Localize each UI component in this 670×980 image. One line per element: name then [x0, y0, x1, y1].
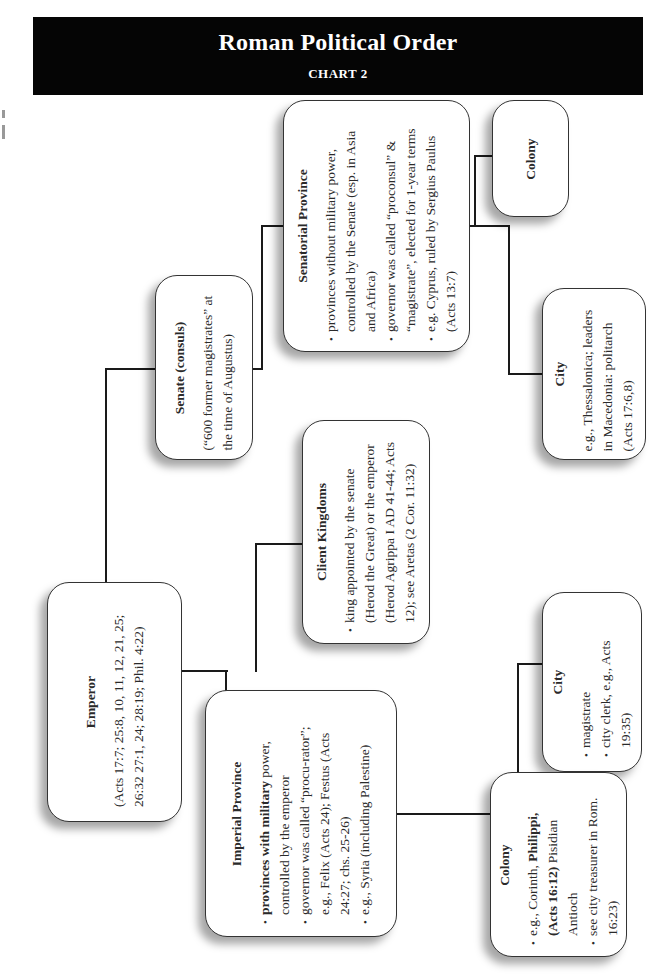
- chart-subtitle: CHART 2: [33, 66, 643, 82]
- connector-colony-up: [517, 663, 519, 773]
- node-imperial-city: City magistrate city clerk, e.g., Acts 1…: [542, 592, 642, 772]
- connector-emperor-to-senate-vertical: [105, 368, 107, 583]
- node-title: Senate (consuls): [170, 285, 190, 450]
- bullet-item: governor was called “proconsul” & “magis…: [381, 111, 421, 341]
- connector-client-horizontal: [255, 543, 302, 545]
- node-title: Imperial Province: [227, 704, 247, 924]
- node-title: Colony: [495, 785, 515, 945]
- connector-emperor-right: [180, 670, 228, 672]
- node-senatorial-colony: Colony: [492, 100, 569, 217]
- bullet-list: magistrate city clerk, e.g., Acts 19:35): [576, 607, 636, 757]
- bullet-item: governor was called “procu-rator”; e.g.,…: [295, 704, 355, 924]
- connector-imperial-right: [395, 813, 495, 815]
- node-imperial-colony: Colony e.g., Corinth, Philippi, (Acts 16…: [490, 772, 627, 957]
- connector-client-vertical: [255, 543, 257, 672]
- bullet-item: king appointed by the senate (Herod the …: [340, 432, 420, 632]
- bullet-item: provinces with military power, controlle…: [255, 704, 295, 924]
- node-title: City: [548, 607, 568, 757]
- node-imperial-province: Imperial Province provinces with militar…: [205, 690, 397, 937]
- node-title: Client Kingdoms: [312, 432, 332, 632]
- node-note: (“600 former magistrates” at the time of…: [198, 285, 238, 450]
- bullet-text: e.g., Corinth,: [525, 861, 540, 935]
- node-emperor: Emperor (Acts 17:7; 25:8, 10, 11, 12, 21…: [47, 582, 182, 822]
- bullet-item: e.g., Corinth, Philippi, (Acts 16:12) Pi…: [523, 785, 583, 945]
- bullet-list: provinces without military power, contro…: [321, 111, 461, 341]
- connector-colony-branch: [474, 155, 476, 227]
- node-note: (Acts 17:7; 25:8, 10, 11, 12, 21, 25; 26…: [109, 597, 149, 807]
- node-senate: Senate (consuls) (“600 former magistrate…: [155, 275, 253, 460]
- connector-city-horizontal: [508, 373, 542, 375]
- node-senatorial-city: City e.g., Thessalonica; leaders in Mace…: [542, 288, 646, 460]
- bullet-item: see city treasurer in Rom. 16:23): [583, 785, 623, 945]
- node-note: e.g., Thessalonica; leaders in Macedonia…: [578, 297, 638, 452]
- connector-senatorial-horizontal: [261, 225, 285, 227]
- bullet-item: city clerk, e.g., Acts 19:35): [596, 607, 636, 757]
- bullet-item: e.g., Syria (including Palestine): [355, 704, 375, 924]
- connector-senatorial-vertical: [261, 225, 263, 370]
- margin-mark: [2, 110, 5, 118]
- bullet-list: provinces with military power, controlle…: [255, 704, 375, 924]
- bullet-item: e.g. Cyprus, ruled by Sergius Paulus (Ac…: [421, 111, 461, 341]
- margin-mark: [2, 125, 5, 139]
- node-client-kingdoms: Client Kingdoms king appointed by the se…: [302, 420, 430, 644]
- bullet-item: provinces without military power, contro…: [321, 111, 381, 341]
- connector-city-tick: [517, 663, 542, 665]
- connector-colony-tick: [474, 155, 492, 157]
- node-title: Colony: [521, 109, 541, 209]
- bullet-list: e.g., Corinth, Philippi, (Acts 16:12) Pi…: [523, 785, 623, 945]
- node-title: Senatorial Province: [293, 111, 313, 341]
- node-title: City: [550, 297, 570, 452]
- connector-city-vertical: [508, 225, 510, 375]
- chart-title-bar: Roman Political Order CHART 2: [33, 17, 643, 95]
- node-title: Emperor: [81, 597, 101, 807]
- connector-senate-horizontal: [105, 368, 160, 370]
- bold-lead: provinces with military: [257, 781, 272, 915]
- bullet-item: magistrate: [576, 607, 596, 757]
- node-senatorial-province: Senatorial Province provinces without mi…: [283, 100, 470, 352]
- chart-title: Roman Political Order: [33, 29, 643, 56]
- bullet-list: king appointed by the senate (Herod the …: [340, 432, 420, 632]
